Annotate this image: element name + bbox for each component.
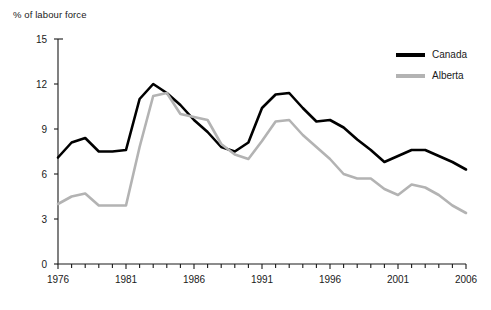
legend-swatch	[396, 53, 425, 57]
series-line-canada	[58, 84, 466, 170]
legend-item: Canada	[396, 50, 467, 60]
legend-item: Alberta	[396, 71, 467, 81]
legend-swatch	[396, 74, 425, 78]
chart-legend: CanadaAlberta	[396, 50, 467, 81]
plot-area	[0, 0, 491, 310]
legend-label: Alberta	[432, 71, 464, 81]
legend-label: Canada	[432, 50, 467, 60]
line-chart: % of labour force 03691215 1976198119861…	[0, 0, 491, 310]
